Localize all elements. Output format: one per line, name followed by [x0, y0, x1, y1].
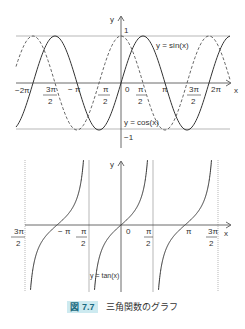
- x-axis-label: x: [234, 86, 238, 95]
- tick-neg-pi: − π: [58, 227, 71, 236]
- figure-caption: 図 7.7三角関数のグラフ: [0, 300, 245, 313]
- tick-pi2-den: 2: [146, 239, 151, 248]
- tick-zero: 0: [125, 85, 130, 94]
- tick-neg-3pi2-den: 2: [48, 97, 53, 106]
- tick-3pi2-num: 3π: [208, 227, 218, 236]
- tick-neg-3pi2-den: 2: [16, 239, 21, 248]
- tick-2pi: 2π: [211, 85, 221, 94]
- tick-3pi2-den: 2: [209, 239, 214, 248]
- y-tick-1: 1: [124, 26, 129, 35]
- tick-neg-3pi2-num: 3π: [14, 227, 24, 236]
- tick-neg-pi2-num: π: [103, 85, 109, 94]
- tan-chart: y x y = tan(x) 3π 2 − π π 2 0 π 2 π 3π 2: [11, 160, 231, 292]
- tick-zero: 0: [126, 227, 131, 236]
- tick-pi2-num: π: [146, 227, 152, 236]
- trig-graphs: y x 1 −1 y = sin(x) y = cos(x) −2π 3π 2 …: [0, 0, 245, 300]
- tan-label: y = tan(x): [90, 272, 119, 280]
- tick-neg-pi2-den: 2: [81, 239, 86, 248]
- y-tick-neg1: −1: [124, 133, 134, 142]
- tick-neg-2pi: −2π: [15, 86, 30, 95]
- tick-pi2-num: π: [138, 85, 144, 94]
- cos-label: y = cos(x): [124, 118, 159, 127]
- tick-pi: π: [162, 85, 168, 94]
- sin-label: y = sin(x): [156, 41, 189, 50]
- tick-neg-pi2-num: π: [81, 227, 87, 236]
- tick-pi: π: [186, 227, 192, 236]
- figure-number: 図 7.7: [67, 301, 97, 313]
- y-axis-label: y: [110, 160, 114, 169]
- tick-neg-pi2-den: 2: [103, 97, 108, 106]
- sin-cos-chart: y x 1 −1 y = sin(x) y = cos(x) −2π 3π 2 …: [15, 15, 238, 148]
- tick-neg-3pi2-num: 3π: [46, 85, 56, 94]
- tick-3pi2-num: 3π: [189, 85, 199, 94]
- tick-3pi2-den: 2: [191, 97, 196, 106]
- tick-neg-pi: − π: [68, 85, 81, 94]
- y-axis-label: y: [110, 15, 114, 24]
- tick-pi2-den: 2: [138, 97, 143, 106]
- x-axis-label: x: [224, 229, 228, 238]
- figure-title: 三角関数のグラフ: [106, 302, 178, 312]
